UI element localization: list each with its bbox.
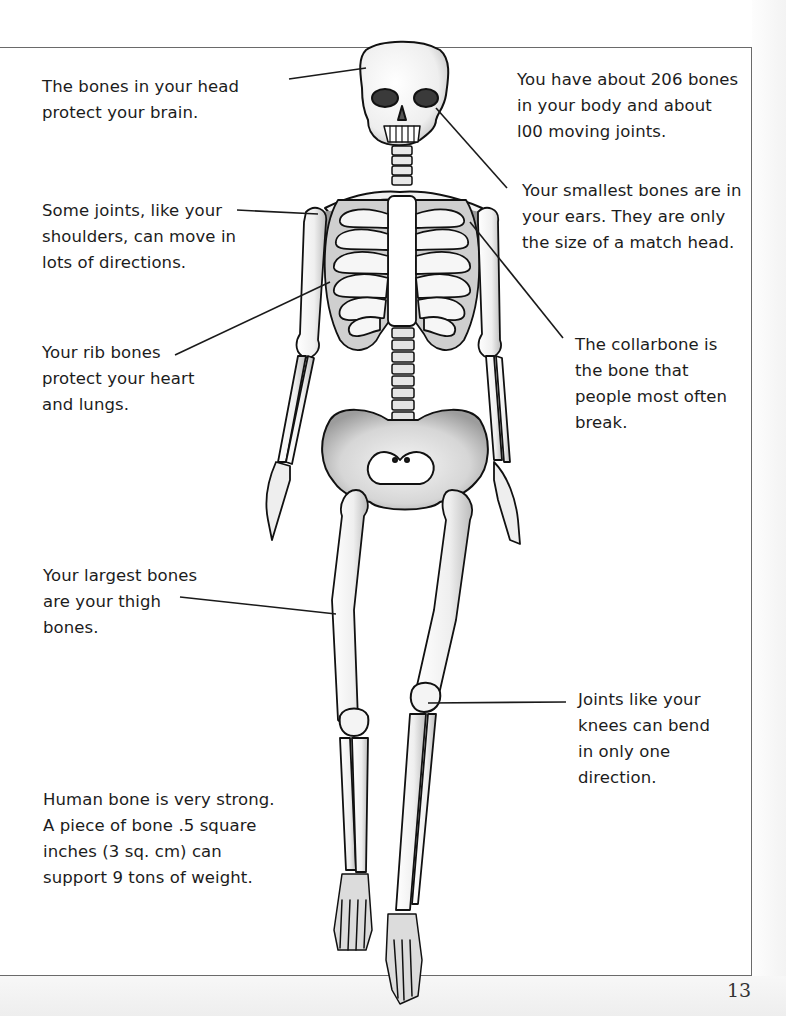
left-kneecap xyxy=(340,709,369,737)
callout-line: A piece of bone .5 square xyxy=(43,813,275,839)
callout-line: The bones in your head xyxy=(42,74,239,100)
callout-line: inches (3 sq. cm) can xyxy=(43,839,275,865)
callout-thigh: Your largest bones are your thigh bones. xyxy=(43,563,197,641)
callout-line: people most often xyxy=(575,384,727,410)
lumbar-spine xyxy=(392,328,414,434)
right-femur xyxy=(416,490,472,698)
callout-line: in only one xyxy=(578,739,710,765)
left-arm xyxy=(266,208,326,540)
callout-line: and lungs. xyxy=(42,392,195,418)
callout-line: are your thigh xyxy=(43,589,197,615)
callout-ribs: Your rib bones protect your heart and lu… xyxy=(42,340,195,418)
callout-line: direction. xyxy=(578,765,710,791)
callout-line: Your smallest bones are in xyxy=(522,178,741,204)
callout-head: The bones in your head protect your brai… xyxy=(42,74,239,126)
callout-line: Human bone is very strong. xyxy=(43,787,275,813)
left-lower-leg xyxy=(340,738,368,872)
callout-line: shoulders, can move in xyxy=(42,224,236,250)
callout-line: l00 moving joints. xyxy=(517,119,738,145)
callout-line: Your largest bones xyxy=(43,563,197,589)
leader-lines xyxy=(175,68,566,703)
callout-line: knees can bend xyxy=(578,713,710,739)
page-number: 13 xyxy=(727,979,751,1001)
callout-smallest-bones: Your smallest bones are in your ears. Th… xyxy=(522,178,741,256)
callout-line: lots of directions. xyxy=(42,250,236,276)
callout-bone-count: You have about 206 bones in your body an… xyxy=(517,67,738,145)
callout-line: Joints like your xyxy=(578,687,710,713)
callout-line: support 9 tons of weight. xyxy=(43,865,275,891)
rib-cage xyxy=(325,196,480,350)
callout-line: bones. xyxy=(43,615,197,641)
callout-line: break. xyxy=(575,410,727,436)
callout-collarbone: The collarbone is the bone that people m… xyxy=(575,332,727,436)
callout-line: The collarbone is xyxy=(575,332,727,358)
left-femur xyxy=(332,490,368,723)
callout-line: your ears. They are only xyxy=(522,204,741,230)
callout-shoulders: Some joints, like your shoulders, can mo… xyxy=(42,198,236,276)
skull xyxy=(360,42,448,146)
callout-knees: Joints like your knees can bend in only … xyxy=(578,687,710,791)
right-kneecap xyxy=(411,683,441,712)
right-lower-leg xyxy=(396,714,436,910)
callout-line: You have about 206 bones xyxy=(517,67,738,93)
callout-line: protect your brain. xyxy=(42,100,239,126)
cervical-spine xyxy=(392,146,412,185)
callout-line: in your body and about xyxy=(517,93,738,119)
callout-line: Your rib bones xyxy=(42,340,195,366)
callout-strength: Human bone is very strong. A piece of bo… xyxy=(43,787,275,891)
callout-line: the size of a match head. xyxy=(522,230,741,256)
left-foot xyxy=(334,874,372,950)
callout-line: protect your heart xyxy=(42,366,195,392)
callout-line: Some joints, like your xyxy=(42,198,236,224)
right-foot xyxy=(386,914,422,1004)
callout-line: the bone that xyxy=(575,358,727,384)
